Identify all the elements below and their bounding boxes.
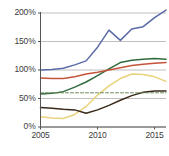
x-tick-label: 2015 bbox=[139, 131, 169, 140]
y-tick-label: 200% bbox=[0, 8, 36, 17]
x-tick-label: 2005 bbox=[25, 131, 57, 140]
line-chart: 0%50%100%150%200% 200520102015 bbox=[0, 0, 169, 156]
data-series-group bbox=[41, 10, 167, 118]
gridlines bbox=[41, 13, 167, 127]
y-tick-label: 0% bbox=[0, 122, 36, 131]
series-line-blue-series bbox=[41, 10, 167, 70]
series-line-yellow-series bbox=[41, 74, 167, 118]
x-tick-label: 2010 bbox=[82, 131, 114, 140]
series-line-dark-series bbox=[41, 91, 167, 113]
axes bbox=[41, 12, 167, 127]
y-tick-label: 100% bbox=[0, 65, 36, 74]
series-line-red-series bbox=[41, 63, 167, 79]
y-tick-label: 50% bbox=[0, 94, 36, 103]
y-tick-label: 150% bbox=[0, 37, 36, 46]
tick-marks bbox=[38, 13, 155, 130]
